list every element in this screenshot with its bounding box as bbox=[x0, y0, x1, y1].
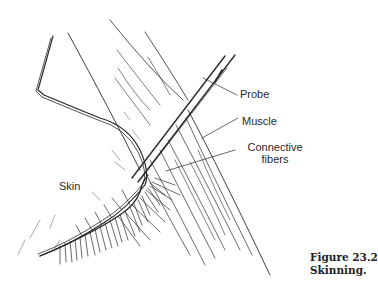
probe-label: Probe bbox=[240, 88, 269, 100]
connective-label-line1: Connective bbox=[237, 141, 313, 153]
connective-fibers-label: Connective fibers bbox=[237, 141, 313, 165]
figure-number: Figure 23.2 bbox=[310, 251, 378, 264]
figure-title: Skinning. bbox=[310, 264, 378, 277]
connective-label-line2: fibers bbox=[237, 153, 313, 165]
skin-label: Skin bbox=[59, 180, 80, 192]
figure-caption: Figure 23.2 Skinning. bbox=[310, 251, 378, 277]
muscle-label: Muscle bbox=[242, 115, 277, 127]
